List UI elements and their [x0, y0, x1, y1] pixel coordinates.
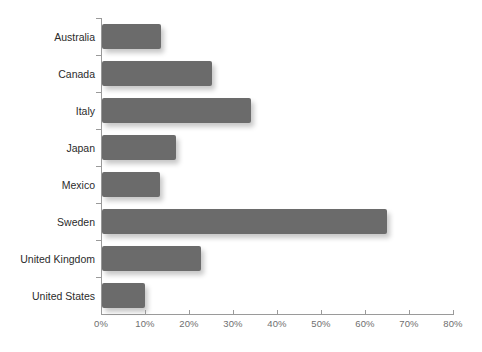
y-axis-tick: [96, 166, 102, 167]
category-label: Japan: [66, 142, 95, 154]
category-label: Australia: [54, 31, 95, 43]
category-label: United Kingdom: [20, 253, 95, 265]
y-axis-tick: [96, 129, 102, 130]
y-axis-tick: [96, 240, 102, 241]
y-axis-tick: [96, 277, 102, 278]
x-axis-tick: [145, 310, 146, 315]
x-axis-tick-label: 20%: [169, 318, 209, 329]
x-axis-tick-label: 10%: [125, 318, 165, 329]
category-label: Italy: [76, 105, 95, 117]
bar: [102, 209, 387, 234]
x-axis-tick-label: 40%: [257, 318, 297, 329]
bar: [102, 172, 160, 197]
plot-area: AustraliaCanadaItalyJapanMexicoSwedenUni…: [0, 0, 482, 352]
x-axis-tick-label: 80%: [433, 318, 473, 329]
bar-chart: AustraliaCanadaItalyJapanMexicoSwedenUni…: [0, 0, 482, 352]
y-axis-tick: [96, 203, 102, 204]
y-axis-tick: [96, 55, 102, 56]
category-label: Canada: [58, 68, 95, 80]
x-axis-tick: [233, 310, 234, 315]
x-axis-tick: [189, 310, 190, 315]
x-axis-tick-label: 60%: [345, 318, 385, 329]
category-label: Mexico: [62, 179, 95, 191]
y-axis-tick: [96, 18, 102, 19]
x-axis-tick: [453, 310, 454, 315]
category-label: United States: [32, 290, 95, 302]
bar: [102, 246, 201, 271]
bar: [102, 283, 145, 308]
x-axis-tick-label: 30%: [213, 318, 253, 329]
x-axis-tick-label: 0%: [81, 318, 121, 329]
x-axis-tick-label: 70%: [389, 318, 429, 329]
x-axis-tick-label: 50%: [301, 318, 341, 329]
category-label: Sweden: [57, 216, 95, 228]
y-axis-tick: [96, 92, 102, 93]
x-axis-tick: [365, 310, 366, 315]
bar: [102, 61, 212, 86]
x-axis-tick: [277, 310, 278, 315]
bar: [102, 98, 251, 123]
bar: [102, 24, 161, 49]
x-axis-tick: [409, 310, 410, 315]
bar: [102, 135, 176, 160]
x-axis-tick: [321, 310, 322, 315]
